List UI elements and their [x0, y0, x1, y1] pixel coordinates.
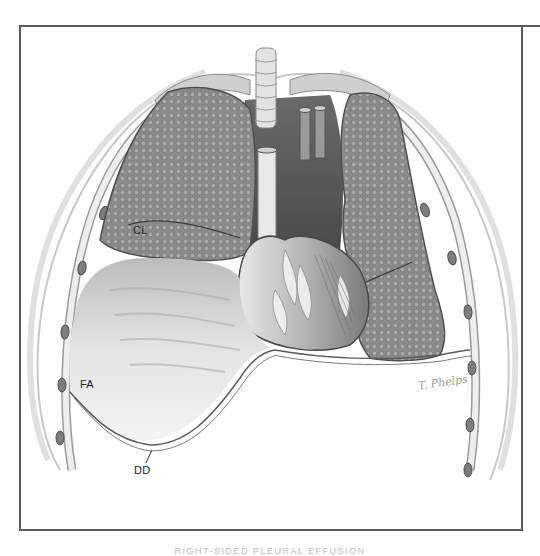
dd-leader-line: [146, 450, 152, 463]
label-fa: FA: [80, 378, 94, 390]
trachea: [255, 48, 277, 128]
figure-caption: RIGHT-SIDED PLEURAL EFFUSION: [0, 546, 540, 556]
label-dd: DD: [134, 464, 150, 476]
compressed-right-lung: [100, 88, 255, 261]
label-cl: CL: [133, 224, 147, 236]
